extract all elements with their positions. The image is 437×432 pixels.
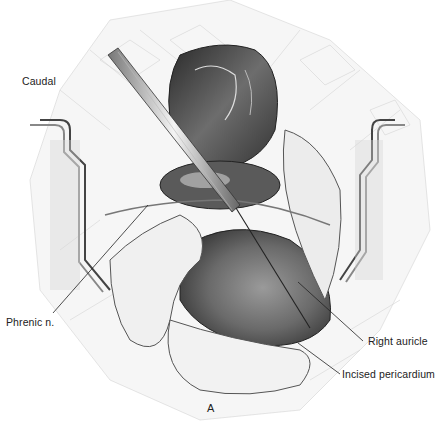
label-phrenic-nerve: Phrenic n. (6, 316, 54, 328)
label-right-auricle: Right auricle (368, 335, 428, 347)
label-incised-pericardium: Incised pericardium (342, 368, 435, 380)
caudal-orientation-label: Caudal (22, 75, 56, 87)
panel-letter: A (207, 402, 214, 414)
